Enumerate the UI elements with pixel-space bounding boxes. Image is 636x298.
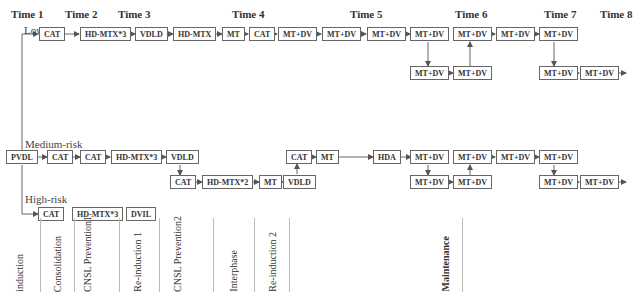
node-med-mtdv-7: MT+DV [539,175,578,189]
node-med-mtdv-6: MT+DV [539,150,578,164]
node-low-mtdv-4: MT+DV [410,27,449,41]
node-med-hdmtx3: HD-MTX*3 [111,150,162,164]
node-med-vdld-1: VDLD [166,150,199,164]
node-med-mtdv-4: MT+DV [453,150,492,164]
time-3-label: Time 3 [118,8,151,20]
phase-divider [40,218,41,292]
node-low-mtdv-1: MT+DV [278,27,317,41]
time-8-label: Time 8 [600,8,633,20]
node-med-mtdv-8: MT+DV [580,175,619,189]
node-low-hdmtx: HD-MTX [173,27,216,41]
node-low-mtdv-3: MT+DV [367,27,406,41]
phase-divider [289,218,290,292]
time-2-label: Time 2 [65,8,98,20]
phase-cnsl-prevention2: CNSL Prevention2 [172,216,196,292]
node-med-cat-4: CAT [286,150,312,164]
phase-divider [74,218,75,292]
node-low-mtdv-11: MT+DV [580,66,619,80]
node-med-mtdv-5: MT+DV [496,150,535,164]
phase-reinduction-2: Re-induction 2 [267,232,278,292]
phase-divider [254,218,255,292]
node-med-mtdv-2: MT+DV [410,175,449,189]
node-low-cat2: CAT [249,27,275,41]
time-5-label: Time 5 [350,8,383,20]
node-med-mt-1: MT [259,175,282,189]
node-low-vdld: VDLD [135,27,168,41]
phase-interphase: Interphase [228,250,239,292]
phase-divider [159,218,160,292]
node-low-mtdv-10: MT+DV [539,66,578,80]
phase-consolidation: Consolidation [52,236,63,292]
node-med-cat-1: CAT [47,150,73,164]
phase-divider [119,218,120,292]
node-low-mtdv-9: MT+DV [539,27,578,41]
node-med-hdmtx2: HD-MTX*2 [202,175,253,189]
node-med-vdld-2: VDLD [283,175,316,189]
phase-divider [462,218,463,292]
node-low-hdmtx3: HD-MTX*3 [80,27,131,41]
node-high-cat: CAT [38,207,64,221]
phase-cnsl-prevention1: CNSL Prevention1 [82,216,106,292]
phase-maintenance: Maintenance [440,236,451,292]
phase-reinduction-1: Re-induction 1 [132,232,143,292]
node-low-mt: MT [222,27,245,41]
phase-induction: induction [14,254,25,292]
medium-risk-label: Medium-risk [25,138,82,150]
node-low-cat: CAT [39,27,65,41]
node-med-hda: HDA [373,150,401,164]
high-risk-label: High-risk [25,193,67,205]
node-low-mtdv-2: MT+DV [322,27,361,41]
node-low-mtdv-5: MT+DV [410,66,449,80]
node-med-cat-2: CAT [80,150,106,164]
node-med-mtdv-3: MT+DV [453,175,492,189]
time-1-label: Time 1 [11,8,44,20]
time-6-label: Time 6 [455,8,488,20]
node-pvdl: PVDL [6,150,38,164]
time-4-label: Time 4 [232,8,265,20]
node-low-mtdv-7: MT+DV [453,27,492,41]
time-7-label: Time 7 [544,8,577,20]
node-med-mtdv-1: MT+DV [410,150,449,164]
node-med-cat-3: CAT [170,175,196,189]
phase-divider [213,218,214,292]
node-low-mtdv-8: MT+DV [496,27,535,41]
node-med-mt-2: MT [316,150,339,164]
node-high-dvil: DVIL [126,207,156,221]
node-low-mtdv-6: MT+DV [453,66,492,80]
